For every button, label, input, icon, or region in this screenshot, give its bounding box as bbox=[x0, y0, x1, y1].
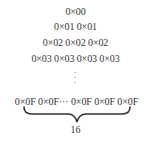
row-3: 0×03 0×03 0×03 0×03 bbox=[0, 53, 151, 65]
row-1: 0×01 0×01 bbox=[0, 21, 151, 33]
brace-label: 16 bbox=[0, 124, 151, 136]
vertical-ellipsis: ··· bbox=[73, 70, 77, 85]
row-0: 0×00 bbox=[0, 6, 151, 18]
underbrace-icon bbox=[22, 106, 132, 124]
row-2: 0×02 0×02 0×02 bbox=[0, 37, 151, 49]
